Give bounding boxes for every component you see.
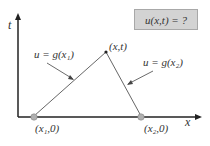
characteristics-diagram: u(x,t) = ? t x (x,t) u = g(x₁) u = g(x₂)… xyxy=(0,0,210,146)
point-x1 xyxy=(31,114,37,120)
apex-point xyxy=(104,50,107,53)
right-line-label: u = g(x₂) xyxy=(143,56,183,68)
left-pointer xyxy=(47,63,73,79)
t-axis-label: t xyxy=(8,18,11,33)
x-axis-arrow-icon xyxy=(195,114,202,120)
apex-label: (x,t) xyxy=(109,40,127,52)
point-x2 xyxy=(138,114,144,120)
x-axis-label: x xyxy=(185,115,190,130)
right-pointer-arrow-icon xyxy=(127,80,133,85)
point2-label: (x₂,0) xyxy=(144,122,168,134)
left-line-label: u = g(x₁) xyxy=(34,48,74,60)
t-axis-arrow-icon xyxy=(15,13,21,20)
point1-label: (x₁,0) xyxy=(35,122,59,134)
left-characteristic-line xyxy=(34,52,106,116)
question-box: u(x,t) = ? xyxy=(134,9,198,30)
right-characteristic-line xyxy=(106,52,141,116)
left-pointer-arrow-icon xyxy=(68,75,74,80)
